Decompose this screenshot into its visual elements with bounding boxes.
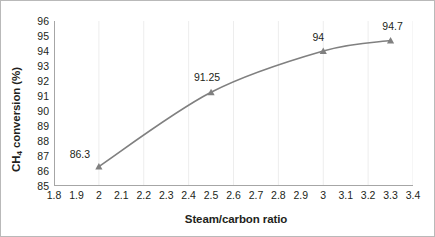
y-axis-title: CH4 conversion (%) [5,1,27,237]
plot-canvas [54,21,413,186]
y-tick-label: 93 [27,61,49,71]
y-tick-label: 88 [27,136,49,146]
x-axis-tick-labels: 1.81.922.12.22.32.42.52.62.72.82.933.13.… [54,189,413,207]
series-markers [95,37,394,170]
plot-area [54,21,413,186]
x-tick-label: 3.4 [400,190,426,201]
y-tick-label: 86 [27,166,49,176]
y-tick-label: 91 [27,91,49,101]
y-tick-label: 92 [27,76,49,86]
series-line [99,41,391,167]
y-tick-label: 94 [27,46,49,56]
y-tick-label: 89 [27,121,49,131]
y-axis-tick-labels: 858687888990919293949596 [25,21,49,186]
y-axis-title-text: CH4 conversion (%) [10,67,22,172]
chart-figure: CH4 conversion (%) 858687888990919293949… [0,0,435,237]
y-tick-label: 90 [27,106,49,116]
x-axis-title: Steam/carbon ratio [56,213,416,225]
y-tick-label: 95 [27,31,49,41]
y-tick-label: 87 [27,151,49,161]
y-tick-label: 96 [27,16,49,26]
